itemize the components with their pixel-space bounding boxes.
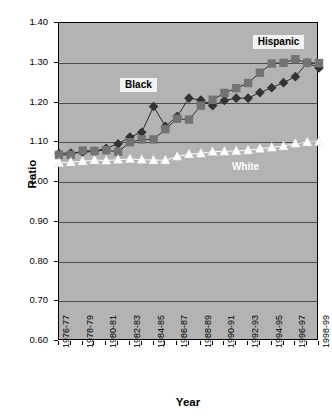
data-point xyxy=(291,55,299,63)
y-tick-label: 1.20 xyxy=(14,97,48,107)
data-point xyxy=(125,154,135,163)
x-tick-mark xyxy=(200,341,201,345)
data-point xyxy=(315,59,323,67)
data-point xyxy=(173,115,181,123)
x-tick-mark xyxy=(247,341,248,345)
data-point xyxy=(185,115,193,123)
x-tick-label: 1984-85 xyxy=(157,315,166,348)
series-label-hispanic: Hispanic xyxy=(253,35,305,49)
series-label-white: White xyxy=(232,162,259,172)
y-tick-label: 1.30 xyxy=(14,57,48,67)
series-label-black: Black xyxy=(120,78,157,92)
series-line xyxy=(59,59,319,155)
x-tick-label: 1992-93 xyxy=(251,315,260,348)
x-tick-mark xyxy=(223,341,224,345)
data-point xyxy=(184,93,194,103)
y-tick-label: 1.40 xyxy=(14,17,48,27)
data-point xyxy=(268,59,276,67)
data-point xyxy=(197,101,205,109)
y-tick-label: 0.60 xyxy=(14,335,48,345)
data-point xyxy=(78,146,86,154)
data-point xyxy=(279,78,289,88)
data-point xyxy=(244,79,252,87)
y-tick-label: 1.10 xyxy=(14,136,48,146)
data-point xyxy=(101,155,111,164)
data-point xyxy=(90,155,100,164)
data-point xyxy=(231,146,241,155)
data-series-layer xyxy=(59,23,319,341)
x-tick-label: 1994-95 xyxy=(275,315,284,348)
data-point xyxy=(126,138,134,146)
data-point xyxy=(303,59,311,67)
data-point xyxy=(102,146,110,154)
data-point xyxy=(314,137,324,146)
data-point xyxy=(90,147,98,155)
data-point xyxy=(267,83,277,93)
x-tick-mark xyxy=(129,341,130,345)
data-point xyxy=(149,155,159,164)
y-tick-label: 0.70 xyxy=(14,295,48,305)
data-point xyxy=(161,125,169,133)
data-point xyxy=(279,59,287,67)
data-point xyxy=(220,146,230,155)
y-tick-label: 0.90 xyxy=(14,216,48,226)
data-point xyxy=(137,154,147,163)
y-tick-label: 0.80 xyxy=(14,256,48,266)
data-point xyxy=(256,68,264,76)
x-tick-label: 1976-77 xyxy=(62,315,71,348)
chart-container: Ratio 1.401.301.201.101.000.900.800.700.… xyxy=(0,0,332,419)
x-tick-label: 1982-83 xyxy=(133,315,142,348)
data-point xyxy=(208,147,218,156)
x-tick-mark xyxy=(153,341,154,345)
data-point xyxy=(184,149,194,158)
x-tick-mark xyxy=(58,341,59,345)
x-tick-mark xyxy=(318,341,319,345)
data-point xyxy=(220,89,228,97)
data-point xyxy=(149,135,157,143)
x-tick-label: 1978-79 xyxy=(86,315,95,348)
x-tick-label: 1996-97 xyxy=(298,315,307,348)
data-point xyxy=(149,102,159,112)
x-tick-label: 1998-99 xyxy=(322,315,331,348)
x-axis-title: Year xyxy=(58,396,318,408)
x-tick-label: 1988-89 xyxy=(204,315,213,348)
x-tick-mark xyxy=(176,341,177,345)
data-point xyxy=(243,93,253,103)
x-tick-mark xyxy=(271,341,272,345)
data-point xyxy=(208,96,216,104)
plot-area: BlackHispanicWhite xyxy=(58,22,318,340)
x-tick-mark xyxy=(105,341,106,345)
x-tick-label: 1990-91 xyxy=(227,315,236,348)
data-point xyxy=(255,88,265,98)
data-point xyxy=(232,84,240,92)
x-tick-label: 1986-87 xyxy=(180,315,189,348)
y-axis-title: Ratio xyxy=(26,134,38,214)
data-point xyxy=(231,93,241,103)
data-point xyxy=(113,139,123,149)
x-tick-label: 1980-81 xyxy=(109,315,118,348)
data-point xyxy=(138,135,146,143)
x-tick-mark xyxy=(294,341,295,345)
y-tick-label: 1.00 xyxy=(14,176,48,186)
x-tick-mark xyxy=(82,341,83,345)
data-point xyxy=(302,137,312,146)
series-line xyxy=(59,63,319,154)
